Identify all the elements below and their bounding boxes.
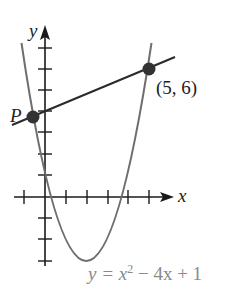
- point-p-label: P: [9, 105, 22, 126]
- y-axis-label: y: [27, 20, 38, 41]
- point-5-6-label: (5, 6): [156, 77, 197, 99]
- curve-equation-label: y = x2 − 4x + 1: [86, 262, 202, 284]
- point-p: [27, 111, 40, 124]
- equation-prefix: y = x: [86, 263, 128, 284]
- graph-figure: y x P (5, 6) y = x2 − 4x + 1: [0, 0, 227, 298]
- x-axis-label: x: [177, 185, 187, 206]
- point-5-6: [143, 63, 156, 76]
- equation-suffix: − 4x + 1: [133, 263, 202, 284]
